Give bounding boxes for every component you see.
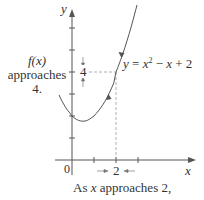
function-label-minus: − — [152, 56, 166, 71]
x-value-2-label: 2 — [112, 164, 121, 177]
function-label-eq: = — [129, 56, 143, 71]
bottom-caption-pre: As — [73, 180, 91, 195]
limit-diagram: y x 0 4 2 y = x2 − x + 2 f(x) approaches… — [0, 0, 204, 200]
y-axis-label: y — [61, 2, 67, 15]
left-caption: f(x) approaches 4. — [4, 54, 70, 96]
y-axis-arrow-icon — [69, 9, 75, 17]
plot-canvas — [0, 0, 204, 200]
y-value-4-label: 4 — [79, 65, 88, 78]
x-axis-label: x — [185, 164, 191, 177]
bottom-caption-post: approaches 2, — [96, 180, 171, 195]
left-caption-line2: approaches — [4, 68, 70, 82]
function-label: y = x2 − x + 2 — [123, 57, 192, 70]
function-label-plus-2: + 2 — [172, 56, 192, 71]
bottom-caption: As x approaches 2, — [73, 181, 171, 194]
left-caption-line1: f(x) — [4, 54, 70, 68]
left-caption-line3: 4. — [4, 82, 70, 96]
origin-label: 0 — [64, 163, 70, 175]
